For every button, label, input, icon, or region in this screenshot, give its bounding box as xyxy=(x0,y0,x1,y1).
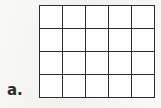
grid-row xyxy=(40,52,155,75)
grid-row xyxy=(40,6,155,29)
grid-cell[interactable] xyxy=(40,75,63,98)
grid-cell[interactable] xyxy=(40,29,63,52)
grid-cell[interactable] xyxy=(132,6,155,29)
grid-cell[interactable] xyxy=(132,52,155,75)
grid-cell[interactable] xyxy=(40,6,63,29)
grid-row xyxy=(40,75,155,98)
grid-cell[interactable] xyxy=(63,29,86,52)
grid-cell[interactable] xyxy=(40,52,63,75)
grid-row xyxy=(40,29,155,52)
grid-cell[interactable] xyxy=(86,6,109,29)
grid-figure xyxy=(39,5,155,98)
grid-cell[interactable] xyxy=(86,29,109,52)
item-label-a: a. xyxy=(7,82,23,98)
grid-cell[interactable] xyxy=(63,52,86,75)
grid-cell[interactable] xyxy=(63,75,86,98)
grid-cell[interactable] xyxy=(109,52,132,75)
grid-cell[interactable] xyxy=(132,29,155,52)
grid-cell[interactable] xyxy=(109,29,132,52)
grid-cell[interactable] xyxy=(109,75,132,98)
grid-cell[interactable] xyxy=(109,6,132,29)
worksheet-figure-panel: a. xyxy=(0,0,161,108)
grid-body xyxy=(40,6,155,98)
grid-cell[interactable] xyxy=(132,75,155,98)
grid-table xyxy=(39,5,155,98)
grid-cell[interactable] xyxy=(86,52,109,75)
grid-cell[interactable] xyxy=(63,6,86,29)
grid-cell[interactable] xyxy=(86,75,109,98)
